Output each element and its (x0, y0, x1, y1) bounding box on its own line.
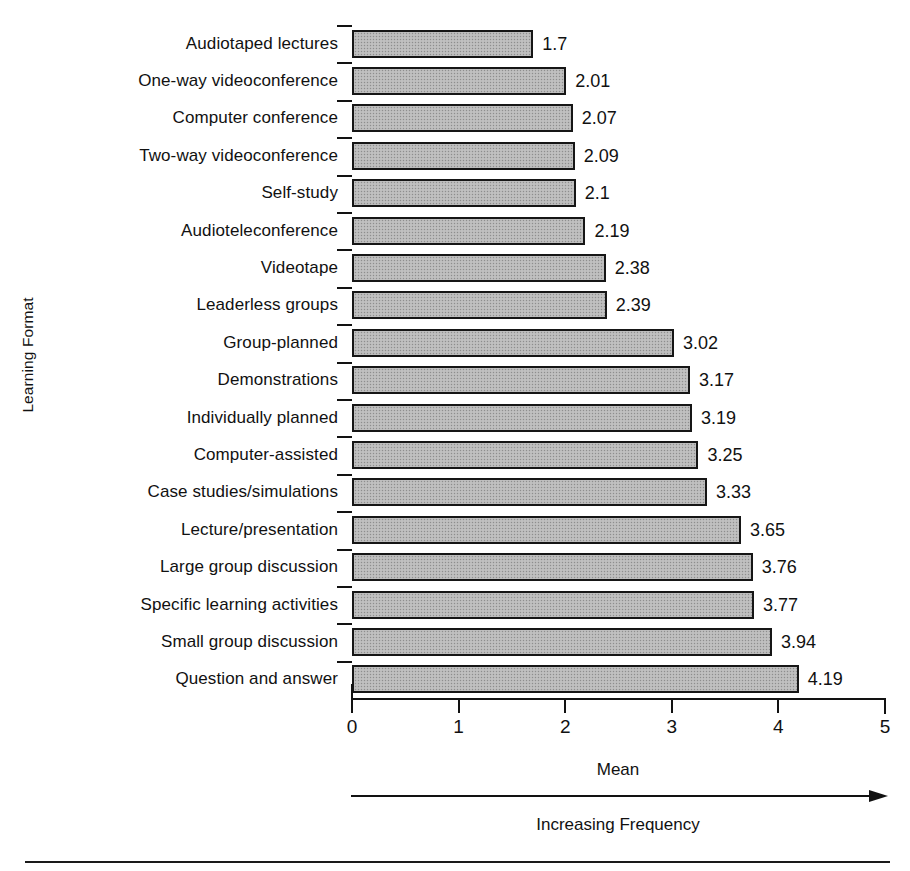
bar (352, 516, 741, 544)
bar-value-label: 3.76 (762, 557, 797, 578)
category-label: Group-planned (223, 333, 338, 353)
y-axis-tick (337, 623, 352, 625)
bar-row: Specific learning activities3.77 (0, 586, 910, 623)
bar (352, 553, 753, 581)
bar (352, 665, 799, 693)
bar-row: Computer-assisted3.25 (0, 436, 910, 473)
category-label: Audioteleconference (181, 221, 338, 241)
bar-value-label: 2.1 (585, 183, 610, 204)
x-axis-line (351, 698, 886, 700)
arrow-head-icon (869, 790, 888, 802)
bar (352, 254, 606, 282)
bar-chart-figure: Learning Format Audiotaped lectures1.7On… (0, 0, 910, 871)
y-axis-tick (337, 436, 352, 438)
x-axis-tick-label: 2 (560, 716, 571, 738)
bar-value-label: 4.19 (808, 669, 843, 690)
bar-value-label: 3.77 (763, 594, 798, 615)
y-axis-tick (337, 25, 352, 27)
bar-value-label: 2.38 (615, 258, 650, 279)
y-axis-tick (337, 212, 352, 214)
y-axis-tick (337, 324, 352, 326)
y-axis-tick (337, 62, 352, 64)
x-axis-tick-label: 1 (453, 716, 464, 738)
category-label: One-way videoconference (138, 71, 338, 91)
bar (352, 329, 674, 357)
bar-value-label: 3.94 (781, 632, 816, 653)
bar-value-label: 3.65 (750, 519, 785, 540)
category-label: Small group discussion (161, 632, 338, 652)
bar-value-label: 3.17 (699, 370, 734, 391)
category-label: Videotape (261, 258, 338, 278)
y-axis-tick (337, 287, 352, 289)
y-axis-tick (337, 175, 352, 177)
x-axis-tick (458, 698, 460, 713)
category-label: Leaderless groups (196, 295, 338, 315)
category-label: Large group discussion (160, 557, 338, 577)
bar (352, 30, 533, 58)
category-label: Computer conference (173, 108, 338, 128)
x-axis-title: Mean (597, 760, 640, 780)
x-axis-tick (351, 698, 353, 713)
x-axis-tick-label: 4 (773, 716, 784, 738)
bar-row: Case studies/simulations3.33 (0, 474, 910, 511)
x-axis-tick (671, 698, 673, 713)
bar (352, 478, 707, 506)
bar-value-label: 3.02 (683, 332, 718, 353)
category-label: Self-study (261, 183, 338, 203)
y-axis-tick (337, 137, 352, 139)
x-axis-tick-label: 5 (880, 716, 891, 738)
bar-row: Group-planned3.02 (0, 324, 910, 361)
x-axis-tick (884, 698, 886, 713)
y-axis-tick (337, 399, 352, 401)
bar-row: One-way videoconference2.01 (0, 62, 910, 99)
bar-row: Leaderless groups2.39 (0, 287, 910, 324)
bar (352, 104, 573, 132)
category-label: Lecture/presentation (181, 520, 338, 540)
category-label: Individually planned (187, 408, 338, 428)
bar-value-label: 2.07 (582, 108, 617, 129)
y-axis-tick (337, 249, 352, 251)
y-axis-tick (337, 474, 352, 476)
category-label: Computer-assisted (194, 445, 338, 465)
bar-row: Videotape2.38 (0, 249, 910, 286)
arrow-caption: Increasing Frequency (536, 815, 699, 835)
category-label: Case studies/simulations (148, 482, 338, 502)
bar-value-label: 2.19 (594, 220, 629, 241)
bar (352, 67, 566, 95)
bar-row: Small group discussion3.94 (0, 623, 910, 660)
y-axis-tick (337, 100, 352, 102)
bar-row: Individually planned3.19 (0, 399, 910, 436)
y-axis-tick (337, 661, 352, 663)
x-axis-tick-label: 0 (347, 716, 358, 738)
bar (352, 291, 607, 319)
bar-row: Large group discussion3.76 (0, 549, 910, 586)
category-label: Specific learning activities (141, 595, 338, 615)
category-label: Demonstrations (218, 370, 338, 390)
y-axis-tick (337, 586, 352, 588)
bar-row: Two-way videoconference2.09 (0, 137, 910, 174)
bar-value-label: 1.7 (542, 33, 567, 54)
increasing-frequency-arrow (351, 789, 888, 803)
bar (352, 441, 698, 469)
bar-value-label: 3.33 (716, 482, 751, 503)
bar-row: Audiotaped lectures1.7 (0, 25, 910, 62)
bar-value-label: 3.25 (707, 445, 742, 466)
bar (352, 404, 692, 432)
bar (352, 142, 575, 170)
bar (352, 217, 585, 245)
bar-value-label: 2.01 (575, 71, 610, 92)
x-axis-tick (564, 698, 566, 713)
bar (352, 628, 772, 656)
bar-row: Demonstrations3.17 (0, 362, 910, 399)
bar-value-label: 2.09 (584, 145, 619, 166)
arrow-shaft (351, 795, 873, 797)
y-axis-tick (337, 549, 352, 551)
bar-row: Self-study2.1 (0, 175, 910, 212)
x-axis-tick (777, 698, 779, 713)
plot-area: Audiotaped lectures1.7One-way videoconfe… (0, 0, 910, 710)
category-label: Audiotaped lectures (186, 34, 338, 54)
bar-value-label: 3.19 (701, 407, 736, 428)
bar-row: Computer conference2.07 (0, 100, 910, 137)
bar-row: Audioteleconference2.19 (0, 212, 910, 249)
category-label: Question and answer (175, 669, 338, 689)
